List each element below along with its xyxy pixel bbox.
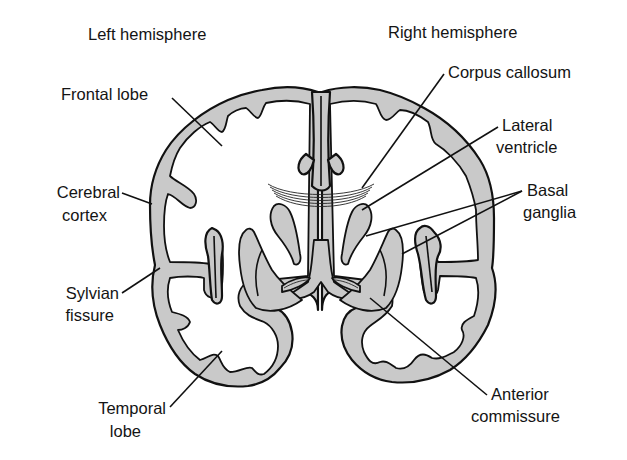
- label-basal-ganglia-line2: ganglia: [523, 202, 576, 223]
- label-corpus-callosum: Corpus callosum: [448, 62, 571, 83]
- label-temporal-lobe-line2: lobe: [60, 421, 141, 442]
- label-sylvian-fissure-line2: fissure: [40, 305, 114, 326]
- label-cerebral-cortex-line1: Cerebral: [40, 182, 120, 203]
- label-cerebral-cortex-line2: cortex: [40, 205, 107, 226]
- label-lateral-ventricle-line1: Lateral: [502, 115, 552, 136]
- header-left-hemisphere: Left hemisphere: [88, 24, 206, 45]
- label-sylvian-fissure-line1: Sylvian: [40, 283, 119, 304]
- label-frontal-lobe: Frontal lobe: [61, 84, 148, 105]
- header-right-hemisphere: Right hemisphere: [388, 22, 517, 43]
- label-basal-ganglia-line1: Basal: [527, 180, 568, 201]
- label-lateral-ventricle-line2: ventricle: [496, 137, 557, 158]
- label-anterior-commissure-line2: commissure: [471, 406, 560, 427]
- label-temporal-lobe-line1: Temporal: [60, 398, 166, 419]
- leader-cerebral-cortex: [122, 193, 152, 204]
- label-anterior-commissure-line1: Anterior: [491, 384, 549, 405]
